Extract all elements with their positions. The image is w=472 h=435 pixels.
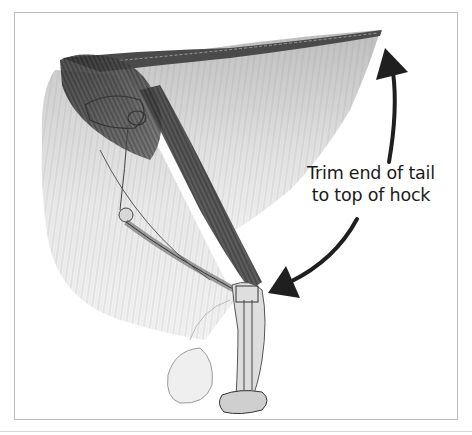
- bottom-divider: [0, 431, 472, 432]
- dog-tail-hock-illustration: [0, 0, 472, 435]
- arrow-to-tail-tip: [376, 48, 408, 162]
- caption-line-1: Trim end of tail: [296, 162, 446, 184]
- trim-instruction-caption: Trim end of tail to top of hock: [296, 162, 446, 206]
- arrow-to-hock: [268, 219, 357, 298]
- caption-line-2: to top of hock: [296, 184, 446, 206]
